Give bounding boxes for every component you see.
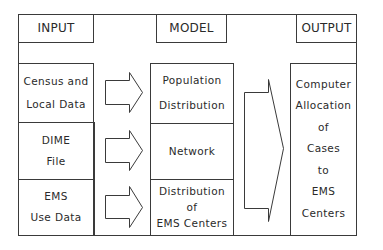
model-cell-network: Network <box>150 123 234 179</box>
output-line: of <box>318 117 329 139</box>
input-cell-line: DIME <box>42 130 70 151</box>
arrow-right-icon <box>106 187 143 228</box>
input-header-label: INPUT <box>38 20 75 37</box>
output-line: to <box>318 160 329 182</box>
big-arrow-right-icon <box>245 80 284 222</box>
output-header-label: OUTPUT <box>301 20 351 37</box>
model-cell-line: Population <box>162 68 221 93</box>
output-line: EMS <box>312 181 336 203</box>
input-cell-line: Local Data <box>26 93 86 116</box>
model-cell-line: of <box>187 199 198 215</box>
model-cell-line: Distribution <box>159 183 225 199</box>
output-line: Centers <box>302 203 346 225</box>
input-cell-line: File <box>46 151 65 172</box>
output-header: OUTPUT <box>296 14 357 43</box>
arrow-right-icon <box>106 73 143 113</box>
output-line: Computer <box>296 74 351 96</box>
input-cell-line: Census and <box>23 70 88 93</box>
model-cell-population: Population Distribution <box>150 63 234 123</box>
arrow-right-icon <box>106 131 143 171</box>
input-cell-dime: DIME File <box>18 122 94 179</box>
output-cell: Computer Allocation of Cases to EMS Cent… <box>290 63 357 235</box>
output-line: Allocation <box>296 95 352 117</box>
input-cell-line: EMS <box>44 186 68 207</box>
model-header-label: MODEL <box>169 20 213 37</box>
model-cell-line: Network <box>169 143 216 160</box>
input-header: INPUT <box>18 14 94 43</box>
input-cell-line: Use Data <box>30 207 81 228</box>
model-cell-line: Distribution <box>159 93 225 118</box>
model-header: MODEL <box>156 14 227 43</box>
output-line: Cases <box>307 138 340 160</box>
model-cell-line: EMS Centers <box>157 215 228 231</box>
input-cell-ems: EMS Use Data <box>18 179 94 235</box>
model-cell-distribution: Distribution of EMS Centers <box>150 179 234 235</box>
input-cell-census: Census and Local Data <box>18 63 94 122</box>
